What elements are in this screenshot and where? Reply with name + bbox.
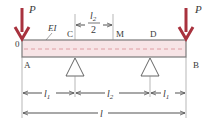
stiffness-label: EI [47,23,57,33]
beam [22,40,186,57]
load-arrow-left-icon [15,8,29,39]
load-arrow-right-icon [179,8,193,39]
support-left-icon [66,58,84,97]
support-right-icon [141,58,159,97]
point-b-label: B [193,60,199,70]
point-m-label: M [116,29,124,39]
point-c-label: C [67,29,73,39]
half-span-denominator: 2 [91,24,96,35]
beam-diagram: l2 2 l1 l2 l1 l P P 0 EI C M D A B [0,0,223,127]
load-left-label: P [28,3,36,15]
dim-total-label: l [100,108,103,119]
load-right-label: P [194,3,202,15]
origin-label: 0 [15,39,20,49]
point-a-label: A [24,60,31,70]
ei-leader-line [46,33,52,40]
point-d-label: D [150,29,157,39]
